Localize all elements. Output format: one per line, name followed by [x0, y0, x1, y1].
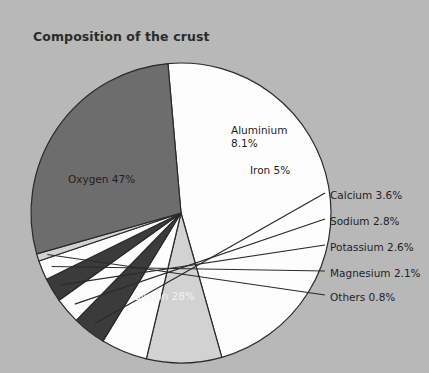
callout-label-potassium: Potassium 2.6% — [330, 241, 414, 254]
callout-label-others: Others 0.8% — [330, 291, 395, 304]
callout-label-magnesium: Magnesium 2.1% — [330, 267, 421, 280]
slice-label-aluminium: Aluminium 8.1% — [231, 124, 287, 150]
pie-chart-figure: Composition of the crust Oxygen 47% Sili… — [0, 0, 429, 373]
callout-label-sodium: Sodium 2.8% — [330, 215, 400, 228]
slice-label-iron: Iron 5% — [250, 164, 290, 177]
slice-label-aluminium-name: Aluminium — [231, 124, 287, 136]
pie-chart-canvas — [0, 0, 429, 373]
slice-label-silicon: Silicon 28% — [134, 290, 195, 303]
callout-label-calcium: Calcium 3.6% — [330, 189, 402, 202]
pie-slice-group — [31, 63, 331, 363]
slice-label-aluminium-value: 8.1% — [231, 137, 287, 150]
slice-label-oxygen: Oxygen 47% — [68, 173, 135, 186]
